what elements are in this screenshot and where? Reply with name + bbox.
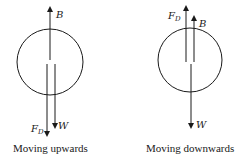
sphere xyxy=(158,28,222,92)
diagram-moving-downwards: FD B W Moving downwards xyxy=(146,8,234,154)
caption-moving-downwards: Moving downwards xyxy=(146,142,234,154)
diagram-moving-upwards: B FD W Moving upwards xyxy=(13,9,88,154)
drag-label: FD xyxy=(167,10,181,23)
buoyancy-label: B xyxy=(55,9,63,20)
drag-label: FD xyxy=(30,123,44,136)
weight-label: W xyxy=(58,120,69,131)
force-diagrams: B FD W Moving upwards FD B W Moving down… xyxy=(0,0,249,160)
weight-label: W xyxy=(196,119,207,130)
buoyancy-label: B xyxy=(198,18,206,29)
caption-moving-upwards: Moving upwards xyxy=(13,142,88,154)
